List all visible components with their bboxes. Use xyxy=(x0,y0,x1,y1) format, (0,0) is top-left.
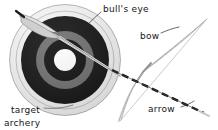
label-target: target xyxy=(11,105,40,115)
label-bow: bow xyxy=(140,31,159,41)
bow-leader-line xyxy=(161,27,179,33)
figure-caption: archery xyxy=(4,118,40,128)
archery-diagram: bull's eye bow arrow target archery xyxy=(0,0,218,130)
label-arrow: arrow xyxy=(148,104,175,114)
label-bulls-eye: bull's eye xyxy=(103,4,149,14)
